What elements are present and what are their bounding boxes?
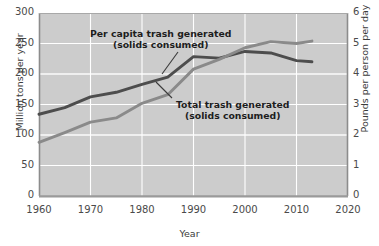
y-axis-right-label: Pounds per person per day bbox=[359, 23, 370, 133]
total-trash-annotation-line2: (solids consumed) bbox=[176, 110, 289, 121]
y-tick-right-0: 0 bbox=[353, 189, 359, 200]
trash-generation-line-chart: 050100150200250300 0123456 1960197019801… bbox=[0, 0, 379, 246]
y-tick-left-300: 300 bbox=[0, 6, 34, 17]
x-tick-1980: 1980 bbox=[126, 204, 158, 215]
x-tick-1970: 1970 bbox=[75, 204, 107, 215]
y-axis-left-label: Million tons per year bbox=[14, 37, 25, 131]
per-capita-annotation-line2: (solids consumed) bbox=[90, 39, 231, 50]
x-axis-label: Year bbox=[0, 228, 379, 239]
y-tick-left-50: 50 bbox=[0, 159, 34, 170]
y-tick-left-0: 0 bbox=[0, 189, 34, 200]
x-tick-1960: 1960 bbox=[23, 204, 55, 215]
y-tick-right-1: 1 bbox=[353, 159, 359, 170]
per-capita-annotation-line1: Per capita trash generated bbox=[90, 28, 231, 39]
x-tick-2020: 2020 bbox=[332, 204, 364, 215]
x-tick-1990: 1990 bbox=[178, 204, 210, 215]
per-capita-series-annotation: Per capita trash generated (solids consu… bbox=[90, 28, 231, 50]
total-trash-series-annotation: Total trash generated (solids consumed) bbox=[176, 99, 289, 121]
total-trash-annotation-line1: Total trash generated bbox=[176, 99, 289, 110]
x-tick-2000: 2000 bbox=[229, 204, 261, 215]
x-tick-2010: 2010 bbox=[281, 204, 313, 215]
